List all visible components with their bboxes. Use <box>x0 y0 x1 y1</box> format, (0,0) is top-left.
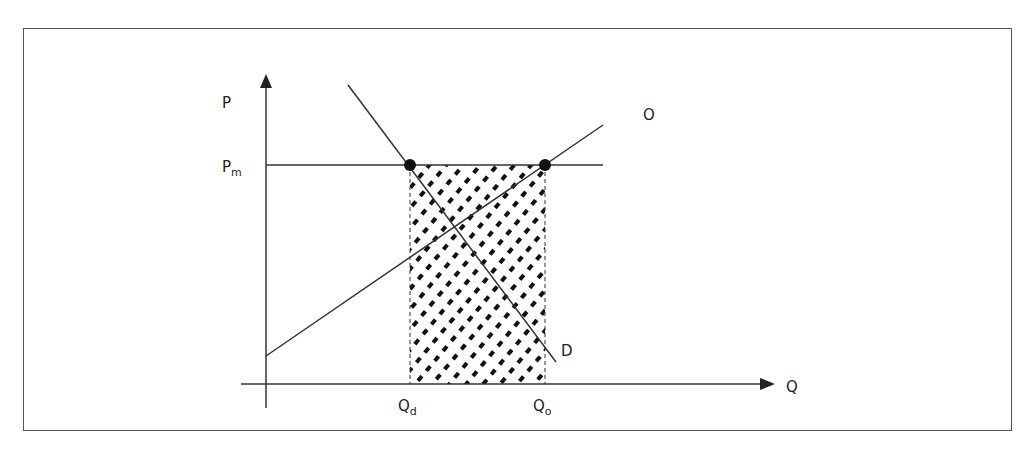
x-axis-label: Q <box>786 378 798 396</box>
y-axis <box>260 74 272 408</box>
price-level-label: Pm <box>222 158 242 179</box>
demand-point-dot <box>404 159 416 171</box>
supply-point-dot <box>539 159 551 171</box>
y-axis-arrow-icon <box>260 74 272 88</box>
y-axis-label: P <box>222 94 231 112</box>
supply-demand-diagram: P Q Pm O D Qd Qo <box>0 0 1035 457</box>
quantity-offered-label: Qo <box>533 397 552 418</box>
supply-label: O <box>643 106 655 124</box>
quantity-demanded-label: Qd <box>398 397 417 418</box>
shaded-excess-region <box>410 165 545 384</box>
x-axis-arrow-icon <box>760 378 775 390</box>
demand-label: D <box>561 342 573 360</box>
